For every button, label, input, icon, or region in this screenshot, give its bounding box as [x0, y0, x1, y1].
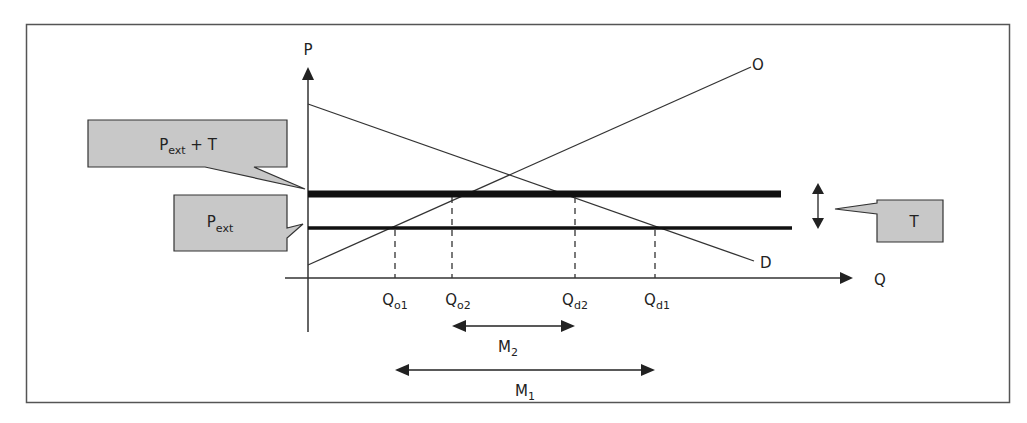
y-axis-label: P — [303, 41, 312, 59]
tariff-diagram: P Q D O Qo1 Qo2 Qd2 Qd1 M2 — [0, 0, 1027, 423]
supply-label: O — [752, 56, 764, 74]
tariff-label: T — [908, 213, 919, 231]
callout-world-price: Pext — [174, 195, 303, 251]
x-axis-label: Q — [874, 271, 886, 289]
demand-label: D — [760, 254, 772, 272]
svg-text:Pext + T: Pext + T — [159, 136, 218, 157]
